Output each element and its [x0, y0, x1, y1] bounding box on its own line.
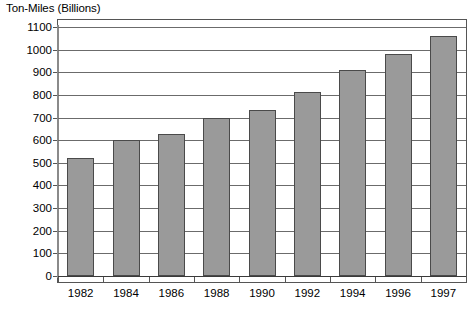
y-tick-label: 0	[2, 270, 52, 282]
gridline	[58, 50, 466, 51]
x-tick-label: 1997	[431, 287, 457, 299]
gridline	[58, 27, 466, 28]
y-tick-label: 100	[2, 247, 52, 259]
y-tick-label: 400	[2, 179, 52, 191]
y-tick-mark	[53, 118, 57, 119]
x-tick-mark	[239, 277, 240, 282]
y-tick-label: 500	[2, 157, 52, 169]
y-tick-label: 1100	[2, 21, 52, 33]
y-tick-mark	[53, 95, 57, 96]
chart-title: Ton-Miles (Billions)	[6, 2, 101, 14]
y-tick-mark	[53, 140, 57, 141]
x-tick-label: 1986	[159, 287, 185, 299]
y-tick-label: 200	[2, 225, 52, 237]
y-tick-mark	[53, 185, 57, 186]
x-tick-label: 1984	[113, 287, 139, 299]
bar-1994	[339, 70, 366, 276]
y-tick-label: 1000	[2, 44, 52, 56]
y-tick-label: 700	[2, 112, 52, 124]
x-tick-label: 1996	[385, 287, 411, 299]
bar-1984	[113, 140, 140, 276]
bar-1996	[385, 54, 412, 276]
y-tick-mark	[53, 27, 57, 28]
x-tick-mark	[421, 277, 422, 282]
x-tick-label: 1988	[204, 287, 230, 299]
y-tick-mark	[53, 72, 57, 73]
y-tick-label: 300	[2, 202, 52, 214]
x-tick-mark	[330, 277, 331, 282]
chart-page: Ton-Miles (Billions) 0100200300400500600…	[0, 0, 475, 310]
bar-1990	[249, 110, 276, 276]
x-tick-mark	[375, 277, 376, 282]
x-tick-mark	[103, 277, 104, 282]
bar-1997	[430, 36, 457, 276]
x-tick-label: 1990	[249, 287, 275, 299]
x-tick-mark	[149, 277, 150, 282]
x-tick-mark	[58, 277, 59, 282]
bar-1992	[294, 92, 321, 276]
y-tick-label: 600	[2, 134, 52, 146]
plot-area	[58, 27, 466, 276]
y-tick-mark	[53, 253, 57, 254]
y-tick-mark	[53, 276, 57, 277]
x-tick-label: 1992	[295, 287, 321, 299]
x-tick-label: 1994	[340, 287, 366, 299]
x-tick-mark	[466, 277, 467, 282]
y-tick-mark	[53, 208, 57, 209]
y-tick-mark	[53, 163, 57, 164]
x-tick-mark	[285, 277, 286, 282]
y-tick-mark	[53, 231, 57, 232]
gridline	[58, 276, 466, 277]
y-tick-label: 800	[2, 89, 52, 101]
bar-1986	[158, 134, 185, 276]
x-tick-label: 1982	[68, 287, 94, 299]
y-tick-label: 900	[2, 66, 52, 78]
y-tick-mark	[53, 50, 57, 51]
bar-1988	[203, 118, 230, 276]
bar-1982	[67, 158, 94, 276]
x-tick-mark	[194, 277, 195, 282]
